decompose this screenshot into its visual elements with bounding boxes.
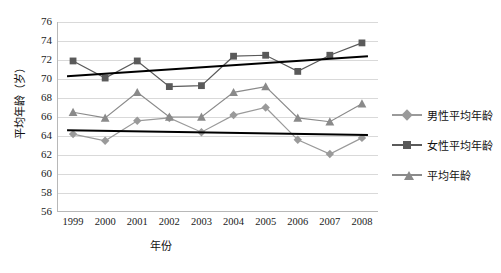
trendline	[67, 56, 368, 76]
data-point-marker	[358, 99, 367, 107]
legend-key-triangle-icon	[392, 169, 422, 181]
legend-label-female: 女性平均年龄	[427, 137, 493, 153]
legend-item-female[interactable]: 女性平均年龄	[392, 130, 501, 160]
y-tick-label: 56	[26, 206, 52, 217]
x-tick-label: 2008	[345, 217, 379, 228]
legend-label-male: 男性平均年龄	[427, 107, 493, 123]
data-point-marker	[294, 68, 301, 75]
data-point-marker	[133, 117, 141, 125]
x-tick-label: 2007	[313, 217, 347, 228]
series-line	[73, 43, 362, 87]
data-point-marker	[133, 88, 142, 96]
data-point-marker	[229, 111, 237, 119]
x-tick-label: 2000	[88, 217, 122, 228]
legend-key-square-icon	[392, 139, 422, 151]
data-point-marker	[166, 83, 173, 90]
legend-key-diamond-icon	[392, 109, 422, 121]
y-tick-label: 76	[26, 16, 52, 27]
legend-item-male[interactable]: 男性平均年龄	[392, 100, 501, 130]
data-point-marker	[326, 150, 334, 158]
data-point-marker	[134, 58, 141, 65]
x-tick-label: 2006	[281, 217, 315, 228]
trendline	[67, 130, 368, 135]
data-point-marker	[70, 58, 77, 65]
line-chart: 5658606264666870727476 19992000200120022…	[0, 0, 501, 273]
data-point-marker	[69, 108, 78, 116]
x-tick-label: 2003	[184, 217, 218, 228]
y-tick-label: 66	[26, 111, 52, 122]
y-tick-label: 64	[26, 130, 52, 141]
y-tick-label: 74	[26, 35, 52, 46]
data-point-marker	[102, 75, 109, 82]
data-point-marker	[230, 53, 237, 60]
y-tick-label: 62	[26, 149, 52, 160]
series-line	[73, 87, 362, 122]
legend-label-average: 平均年龄	[427, 167, 471, 183]
data-point-marker	[198, 82, 205, 89]
y-tick-label: 68	[26, 92, 52, 103]
legend-item-average[interactable]: 平均年龄	[392, 160, 501, 190]
y-tick-label: 72	[26, 54, 52, 65]
data-point-marker	[261, 82, 270, 90]
y-tick-label: 58	[26, 187, 52, 198]
x-tick-label: 1999	[56, 217, 90, 228]
x-tick-label: 2005	[249, 217, 283, 228]
x-tick-label: 2001	[120, 217, 154, 228]
y-tick-label: 60	[26, 168, 52, 179]
chart-legend: 男性平均年龄 女性平均年龄 平均年龄	[392, 100, 501, 190]
data-point-marker	[262, 52, 269, 59]
x-tick-label: 2002	[152, 217, 186, 228]
y-tick-label: 70	[26, 73, 52, 84]
x-tick-label: 2004	[217, 217, 251, 228]
x-axis-title: 年份	[150, 237, 172, 253]
series-overlay	[57, 22, 378, 212]
data-point-marker	[359, 40, 366, 47]
data-point-marker	[101, 137, 109, 145]
y-axis-title: 平均年龄（岁）	[11, 45, 27, 155]
